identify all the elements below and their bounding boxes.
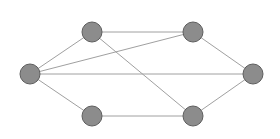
edge-A-E: [30, 74, 92, 116]
node-C: [183, 22, 203, 42]
edge-C-D: [193, 32, 253, 74]
edge-A-C: [30, 32, 193, 74]
edge-A-B: [30, 32, 92, 74]
node-A: [20, 64, 40, 84]
graph-diagram: [0, 0, 280, 139]
node-B: [82, 22, 102, 42]
edge-D-F: [193, 74, 253, 116]
node-F: [183, 106, 203, 126]
node-E: [82, 106, 102, 126]
node-D: [243, 64, 263, 84]
edges-layer: [30, 32, 253, 116]
